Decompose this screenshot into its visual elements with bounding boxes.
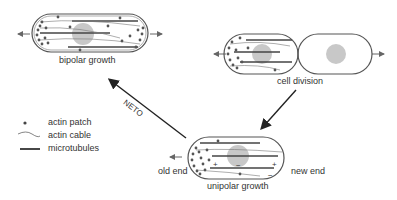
legend-symbols bbox=[18, 121, 40, 149]
bipolar-growth-label: bipolar growth bbox=[59, 55, 116, 65]
bipolar-cell bbox=[18, 14, 162, 52]
new-end-label: new end bbox=[291, 166, 325, 176]
division-cells bbox=[214, 34, 384, 74]
legend-actin-patch: actin patch bbox=[48, 117, 92, 127]
old-end-label: old end bbox=[158, 166, 188, 176]
unipolar-growth-label: unipolar growth bbox=[207, 181, 269, 191]
cell-cycle-diagram: ++ −− bbox=[0, 0, 397, 200]
cell-division-label: cell division bbox=[277, 76, 323, 86]
actin-patch-icon bbox=[23, 121, 26, 124]
svg-text:−: − bbox=[236, 161, 241, 170]
svg-text:−: − bbox=[268, 171, 273, 180]
actin-cable-icon bbox=[18, 132, 40, 137]
legend-actin-cable: actin cable bbox=[48, 130, 91, 140]
neto-arrow bbox=[110, 80, 186, 138]
svg-text:+: + bbox=[213, 160, 218, 169]
division-to-unipolar-arrow bbox=[262, 90, 296, 128]
nucleus bbox=[72, 23, 94, 45]
svg-text:+: + bbox=[272, 160, 277, 169]
legend-microtubules: microtubules bbox=[48, 143, 99, 153]
